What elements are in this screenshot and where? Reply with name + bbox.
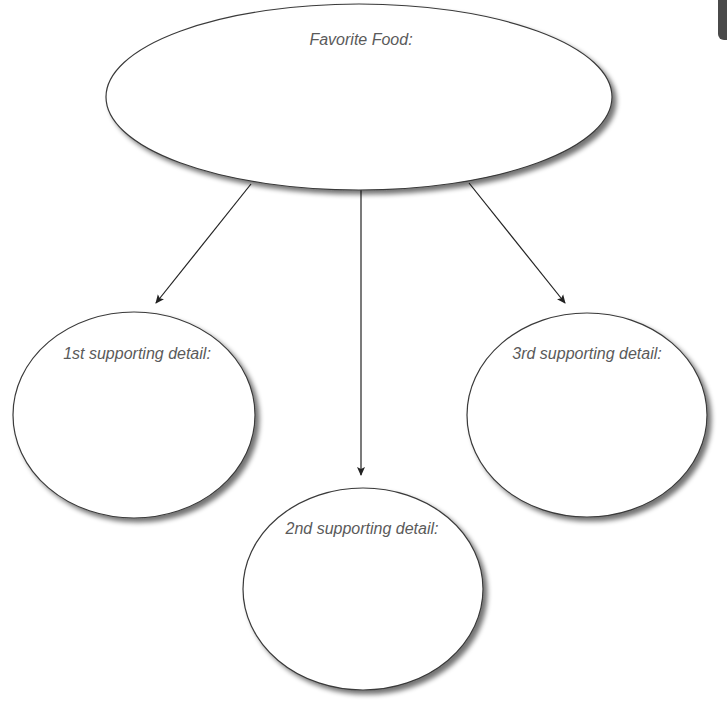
detail-1-label: 1st supporting detail: — [63, 345, 211, 363]
detail-3-ellipse[interactable] — [467, 313, 707, 517]
arrow-to-detail-1 — [156, 184, 251, 303]
corner-tab — [718, 0, 727, 40]
detail-2-label: 2nd supporting detail: — [286, 520, 439, 538]
detail-2-ellipse[interactable] — [243, 488, 483, 690]
main-topic-label: Favorite Food: — [309, 31, 412, 49]
detail-1-ellipse[interactable] — [13, 312, 255, 518]
arrow-to-detail-3 — [469, 183, 565, 303]
detail-3-label: 3rd supporting detail: — [512, 345, 661, 363]
